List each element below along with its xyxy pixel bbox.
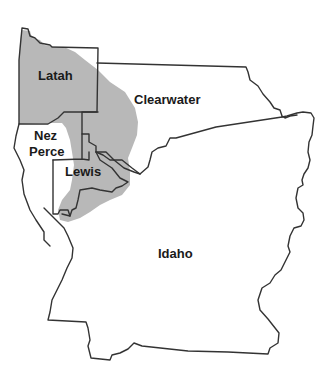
shaded-region (19, 30, 138, 222)
label-idaho: Idaho (158, 246, 193, 261)
label-clearwater: Clearwater (134, 92, 200, 107)
label-nez-perce-line2: Perce (29, 144, 64, 159)
label-latah: Latah (38, 68, 73, 83)
label-lewis: Lewis (65, 164, 101, 179)
county-map: Latah Clearwater Nez Perce Lewis Idaho (0, 0, 329, 379)
label-nez-perce-line1: Nez (34, 128, 58, 143)
map-canvas: Latah Clearwater Nez Perce Lewis Idaho (0, 0, 329, 379)
